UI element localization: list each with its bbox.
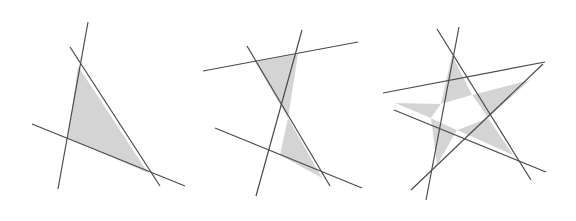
line-arrangement-figure: [0, 0, 576, 221]
figure-root: [0, 0, 576, 221]
